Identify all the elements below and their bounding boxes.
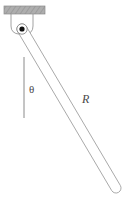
pendulum-rod [17,24,121,193]
ceiling-block-rect [4,6,45,14]
ceiling-support-block [4,6,45,14]
theta-label: θ [29,83,34,95]
radius-label: R [81,92,90,106]
pivot-dot [19,26,24,31]
pivot-point [17,24,27,34]
rod-capsule-outline [17,24,121,193]
pendulum-diagram: θ R [0,0,129,199]
pendulum-diagram-canvas: θ R [0,0,129,199]
